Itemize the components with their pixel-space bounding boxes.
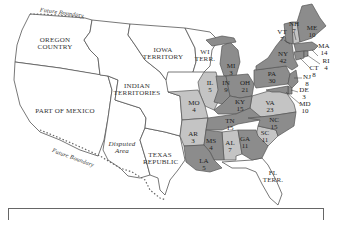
electoral-votes: 11 (240, 143, 250, 150)
label-texas: TEXAS REPUBLIC (143, 152, 177, 166)
state-label-ms: MS4 (206, 138, 216, 152)
label-indian: INDIAN TERRITORIES (111, 83, 163, 97)
state-ct (294, 51, 304, 60)
electoral-votes: 23 (265, 107, 274, 114)
state-label-ar: AR3 (188, 131, 198, 145)
electoral-votes: 4 (188, 107, 199, 114)
state-label-ri: RI4 (323, 58, 330, 72)
electoral-votes: 30 (268, 78, 276, 85)
state-label-pa: PA30 (268, 71, 276, 85)
state-label-sc: SC11 (261, 130, 270, 144)
state-ma (294, 42, 318, 52)
state-label-me: ME10 (307, 25, 318, 39)
electoral-votes: 10 (299, 108, 310, 115)
electoral-votes: 4 (323, 65, 330, 72)
state-label-la: LA5 (199, 158, 208, 172)
electoral-votes: 7 (289, 28, 299, 35)
label-oregon: OREGON COUNTRY (30, 37, 80, 51)
electoral-votes: 3 (227, 70, 236, 77)
state-label-al: AL7 (225, 140, 234, 154)
state-label-ky: KY15 (235, 99, 245, 113)
electoral-votes: 10 (307, 32, 318, 39)
state-label-oh: OH21 (240, 80, 250, 94)
label-iowa: IOWA TERRITORY (141, 47, 186, 61)
state-label-de: DE3 (299, 87, 308, 101)
electoral-votes: 14 (318, 50, 329, 57)
state-label-va: VA23 (265, 100, 274, 114)
electoral-votes: 15 (225, 125, 234, 132)
state-label-mi: MI3 (227, 63, 236, 77)
state-ri (304, 51, 308, 57)
state-label-nc: NC15 (269, 117, 279, 131)
state-label-il: IL5 (207, 80, 214, 94)
electoral-votes: 9 (222, 87, 229, 94)
state-label-mo: MO4 (188, 100, 199, 114)
label-wi: WI TERR. (194, 49, 216, 63)
electoral-votes: 5 (199, 165, 208, 172)
electoral-votes: 7 (225, 147, 234, 154)
electoral-votes: 5 (207, 87, 214, 94)
electoral-votes: 4 (206, 145, 216, 152)
state-label-ma: MA14 (318, 43, 329, 57)
state-label-tn: TN15 (225, 118, 234, 132)
electoral-votes: 15 (235, 106, 245, 113)
electoral-votes: 42 (278, 58, 288, 65)
electoral-votes: 3 (188, 138, 198, 145)
state-label-md: MD10 (299, 101, 310, 115)
legend-box (8, 208, 324, 220)
state-label-ny: NY42 (278, 51, 288, 65)
electoral-votes: 11 (261, 137, 270, 144)
state-label-nh: NH7 (289, 21, 299, 35)
label-fl: FL TERR. (262, 170, 284, 184)
electoral-votes: 15 (269, 124, 279, 131)
state-label-vt: VT7 (277, 29, 286, 43)
state-label-ga: GA11 (240, 136, 250, 150)
state-label-in: IN9 (222, 80, 229, 94)
label-mexico: PART OF MEXICO (35, 108, 95, 115)
label-disputed: Disputed Area (107, 141, 137, 155)
electoral-votes: 21 (240, 87, 250, 94)
electoral-votes: 7 (277, 36, 286, 43)
